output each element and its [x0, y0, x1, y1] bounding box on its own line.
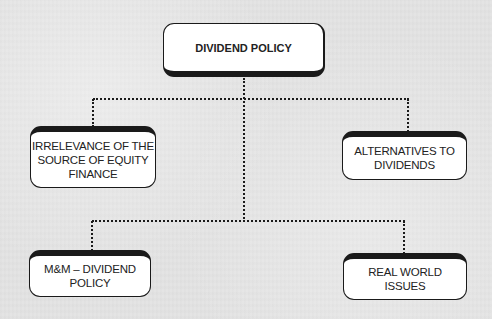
node-label: IRRELEVANCE OF THE SOURCE OF EQUITY FINA… — [32, 139, 154, 181]
node-real-world-issues: REAL WORLD ISSUES — [343, 253, 467, 300]
node-label: REAL WORLD ISSUES — [368, 265, 442, 293]
node-dividend-policy: DIVIDEND POLICY — [163, 23, 325, 77]
node-label: M&M – DIVIDEND POLICY — [44, 262, 136, 290]
connector-to-irrelevance — [92, 99, 94, 127]
node-alternatives-to-dividends: ALTERNATIVES TO DIVIDENDS — [342, 131, 467, 180]
connector-to-alternatives — [407, 99, 409, 132]
connector-lower-horizontal — [92, 220, 405, 222]
connector-upper-horizontal — [93, 98, 409, 100]
connector-to-mm — [91, 221, 93, 251]
node-irrelevance-of-source-of-equity-finance: IRRELEVANCE OF THE SOURCE OF EQUITY FINA… — [30, 126, 156, 188]
node-label: DIVIDEND POLICY — [195, 41, 292, 55]
connector-to-real-world — [403, 221, 405, 254]
node-mm-dividend-policy: M&M – DIVIDEND POLICY — [29, 250, 151, 297]
node-label: ALTERNATIVES TO DIVIDENDS — [354, 144, 454, 172]
